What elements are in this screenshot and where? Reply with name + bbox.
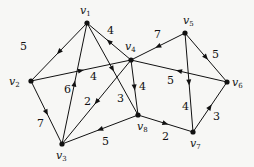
edge-weight: 7	[37, 117, 44, 130]
edge-weight: 3	[117, 92, 124, 105]
edge-weight: 5	[167, 74, 174, 87]
arrowhead-icon	[71, 81, 76, 87]
edge-weight: 2	[84, 95, 91, 108]
edge-weight: 3	[213, 110, 220, 123]
node-v3	[59, 141, 64, 146]
node-label: v2	[9, 75, 20, 89]
node-v5	[182, 30, 187, 35]
edge-weight: 7	[154, 28, 161, 41]
arrowhead-icon	[78, 69, 84, 74]
node-label: v1	[80, 4, 91, 18]
edge-weight: 4	[182, 100, 189, 113]
node-v6	[224, 79, 229, 84]
node-v2	[28, 78, 33, 83]
edge-weight: 4	[90, 70, 97, 83]
edge-weight: 4	[139, 80, 146, 93]
node-label: v6	[232, 76, 243, 90]
arrowhead-icon	[162, 120, 168, 125]
node-label: v4	[125, 40, 136, 54]
node-label: v3	[56, 149, 67, 163]
graph-svg: 544632745755423v1v2v3v4v5v6v7v8	[0, 0, 254, 167]
node-v7	[190, 129, 195, 134]
graph-diagram: 544632745755423v1v2v3v4v5v6v7v8	[0, 0, 254, 167]
node-label: v7	[190, 137, 201, 151]
edge-weight: 5	[102, 135, 109, 148]
edge-weight: 6	[64, 83, 71, 96]
arrowhead-icon	[206, 105, 211, 111]
edge-weight: 4	[107, 24, 114, 37]
node-v4	[128, 57, 133, 62]
node-v8	[135, 112, 140, 117]
node-label: v5	[183, 14, 194, 28]
edge-weight: 5	[20, 40, 27, 53]
arrowhead-icon	[132, 84, 137, 90]
edge-weight: 5	[212, 48, 219, 61]
arrowhead-icon	[97, 126, 103, 131]
arrowhead-icon	[176, 69, 182, 74]
edge-weight: 2	[162, 130, 169, 143]
node-label: v8	[137, 120, 148, 134]
node-v1	[84, 20, 89, 25]
